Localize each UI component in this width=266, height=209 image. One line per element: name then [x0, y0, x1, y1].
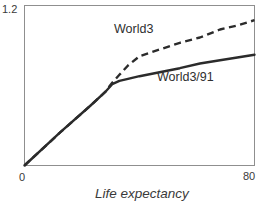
chart-area: 1.2 0 80 World3 World3/91 Life expectanc…	[0, 0, 266, 209]
x-axis-title: Life expectancy	[95, 187, 189, 201]
world3-91-series-label: World3/91	[157, 71, 214, 84]
world3-dashed-line	[25, 20, 255, 165]
x-axis-tick-label-max: 80	[243, 171, 255, 182]
world3-series-label: World3	[114, 23, 153, 36]
x-axis-tick-label-min: 0	[19, 172, 25, 183]
y-axis-tick-label: 1.2	[2, 4, 17, 15]
world3-91-solid-line	[25, 55, 255, 166]
